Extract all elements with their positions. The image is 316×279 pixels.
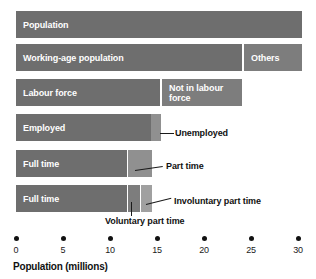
bar-segment-working-age-population: Working-age population	[16, 44, 242, 71]
callout-label-involuntary-part-time: Involuntary part time	[174, 196, 261, 206]
axis-tick-label: 20	[189, 245, 219, 255]
axis-tick-dot	[202, 236, 207, 241]
bar-segment-population: Population	[16, 11, 302, 38]
bar-segment-employed: Employed	[16, 114, 151, 141]
leader-line-voluntary-part-time	[131, 202, 132, 216]
bar-segment-unemployed	[151, 114, 161, 141]
bar-segment-label-full-time-b: Full time	[23, 194, 59, 204]
table-row: Employed	[0, 114, 316, 141]
callout-label-part-time: Part time	[166, 161, 204, 171]
bar-segment-label-others: Others	[251, 53, 279, 63]
bar-segment-label-employed: Employed	[23, 123, 65, 133]
bar-segment-label-working-age-population: Working-age population	[23, 53, 124, 63]
bar-segment-full-time-b: Full time	[16, 185, 127, 212]
bar-segment-label-not-in-labour-force: Not in labour force	[169, 83, 242, 103]
bar-segment-part-time	[128, 150, 152, 177]
bar-segment-label-full-time-a: Full time	[23, 159, 59, 169]
table-row: Population	[0, 11, 316, 38]
bar-segment-voluntary-part-time	[128, 185, 140, 212]
x-axis-title: Population (millions)	[13, 261, 108, 272]
labour-force-breakdown-chart: Population Working-age population Others…	[0, 0, 316, 279]
axis-tick-label: 0	[1, 245, 31, 255]
axis-tick-dot	[108, 236, 113, 241]
bar-segment-not-in-labour-force: Not in labour force	[162, 79, 242, 106]
bar-segment-labour-force: Labour force	[16, 79, 160, 106]
axis-tick-dot	[14, 236, 19, 241]
table-row: Working-age population Others	[0, 44, 316, 71]
axis-tick-dot	[249, 236, 254, 241]
axis-tick-dot	[155, 236, 160, 241]
bar-segment-others: Others	[244, 44, 302, 71]
table-row: Full time	[0, 150, 316, 177]
axis-tick-label: 30	[283, 245, 313, 255]
bar-segment-label-labour-force: Labour force	[23, 88, 77, 98]
callout-label-voluntary-part-time: Voluntary part time	[105, 216, 184, 226]
axis-tick-label: 10	[95, 245, 125, 255]
callout-label-unemployed: Unemployed	[175, 128, 228, 138]
bar-segment-full-time-a: Full time	[16, 150, 127, 177]
table-row: Full time	[0, 185, 316, 212]
axis-tick-label: 5	[48, 245, 78, 255]
axis-tick-dot	[61, 236, 66, 241]
leader-line-unemployed	[160, 133, 174, 134]
table-row: Labour force Not in labour force	[0, 79, 316, 106]
axis-tick-dot	[296, 236, 301, 241]
axis-tick-label: 15	[142, 245, 172, 255]
axis-tick-label: 25	[236, 245, 266, 255]
bar-segment-involuntary-part-time	[141, 185, 152, 212]
bar-segment-label-population: Population	[23, 20, 69, 30]
